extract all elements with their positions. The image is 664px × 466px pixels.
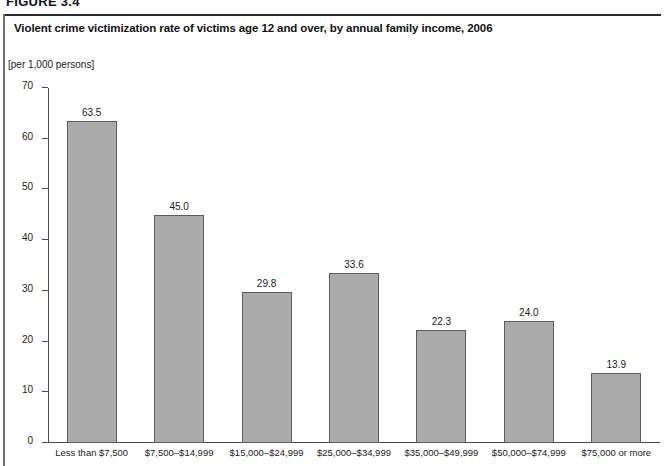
y-axis-tick-label: 50 bbox=[22, 181, 33, 192]
chart-title: Violent crime victimization rate of vict… bbox=[14, 22, 492, 34]
bar-item[interactable]: 24.0 bbox=[504, 88, 554, 443]
y-axis-tick-label: 10 bbox=[22, 384, 33, 395]
bar-series: 63.545.029.833.622.324.013.9 bbox=[48, 88, 660, 443]
bar[interactable] bbox=[504, 321, 554, 443]
panel-top-rule bbox=[3, 14, 661, 16]
bar-value-label: 24.0 bbox=[504, 307, 554, 318]
bar[interactable] bbox=[416, 330, 466, 443]
x-axis-category-labels: Less than $7,500$7,500–$14,999$15,000–$2… bbox=[48, 447, 660, 463]
bar-value-label: 29.8 bbox=[242, 278, 292, 289]
y-axis-tick-label: 70 bbox=[22, 80, 33, 91]
y-axis-tick-label: 30 bbox=[22, 283, 33, 294]
bar-item[interactable]: 29.8 bbox=[242, 88, 292, 443]
y-axis-tick-label: 40 bbox=[22, 232, 33, 243]
x-axis-label: $7,500–$14,999 bbox=[135, 447, 222, 458]
x-axis-label: $50,000–$74,999 bbox=[485, 447, 572, 458]
y-axis-tick-label: 60 bbox=[22, 131, 33, 142]
bar-value-label: 22.3 bbox=[416, 316, 466, 327]
x-axis-label: $35,000–$49,999 bbox=[398, 447, 485, 458]
bar-item[interactable]: 13.9 bbox=[591, 88, 641, 443]
bar[interactable] bbox=[242, 292, 292, 443]
bar-value-label: 33.6 bbox=[329, 259, 379, 270]
x-axis-label: Less than $7,500 bbox=[48, 447, 135, 458]
bar[interactable] bbox=[154, 215, 204, 443]
plot-area: 010203040506070 63.545.029.833.622.324.0… bbox=[48, 88, 660, 443]
x-axis-label: $15,000–$24,999 bbox=[223, 447, 310, 458]
bar-value-label: 63.5 bbox=[67, 107, 117, 118]
y-axis-tick-label: 20 bbox=[22, 334, 33, 345]
bar[interactable] bbox=[329, 273, 379, 443]
bar-item[interactable]: 22.3 bbox=[416, 88, 466, 443]
bar-item[interactable]: 63.5 bbox=[67, 88, 117, 443]
panel-left-rule bbox=[3, 14, 5, 466]
figure-number: FIGURE 3.4 bbox=[6, 0, 80, 9]
bar[interactable] bbox=[591, 373, 641, 443]
x-axis-label: $75,000 or more bbox=[573, 447, 660, 458]
bar-item[interactable]: 33.6 bbox=[329, 88, 379, 443]
bar[interactable] bbox=[67, 121, 117, 443]
x-axis-label: $25,000–$34,999 bbox=[310, 447, 397, 458]
y-axis-units-label: [per 1,000 persons] bbox=[8, 59, 94, 70]
y-axis-tick-label: 0 bbox=[27, 435, 33, 446]
bar-value-label: 45.0 bbox=[154, 201, 204, 212]
bar-item[interactable]: 45.0 bbox=[154, 88, 204, 443]
bar-value-label: 13.9 bbox=[591, 359, 641, 370]
